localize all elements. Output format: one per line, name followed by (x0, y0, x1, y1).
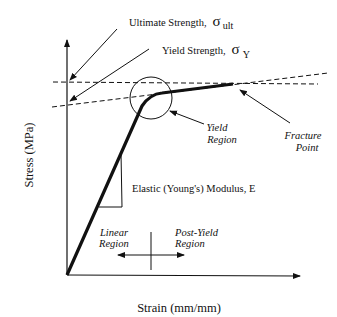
yield-strength-label: Yield Strength,σY (162, 41, 250, 60)
ultimate-strength-dashed-line (53, 82, 318, 84)
elastic-modulus-label: Elastic (Young's) Modulus, E (132, 183, 255, 195)
yield-region-label-line1: Yield (207, 122, 229, 133)
yield-region-arrow (170, 111, 204, 124)
fracture-point-label-line2: Point (295, 142, 320, 153)
ultimate-strength-arrow (70, 29, 117, 80)
x-axis (67, 275, 300, 276)
ultimate-strength-label: Ultimate Strength,σult (129, 13, 233, 31)
yield-region-label-line2: Region (206, 134, 237, 145)
x-axis-label: Strain (mm/mm) (137, 301, 221, 315)
linear-region-label-line1: Linear (99, 227, 129, 238)
fracture-point-label-line1: Fracture (284, 130, 322, 141)
linear-region-label-line2: Region (98, 238, 129, 249)
y-axis-label: Stress (MPa) (22, 123, 36, 188)
post-yield-label-line2: Region (174, 238, 205, 249)
stress-strain-diagram: Ultimate Strength,σult Yield Strength,σY… (0, 0, 337, 317)
stress-strain-curve (67, 84, 233, 275)
yield-strength-arrow (70, 49, 149, 101)
fracture-point-arrow (240, 90, 290, 123)
post-yield-label-line1: Post-Yield (174, 227, 219, 238)
